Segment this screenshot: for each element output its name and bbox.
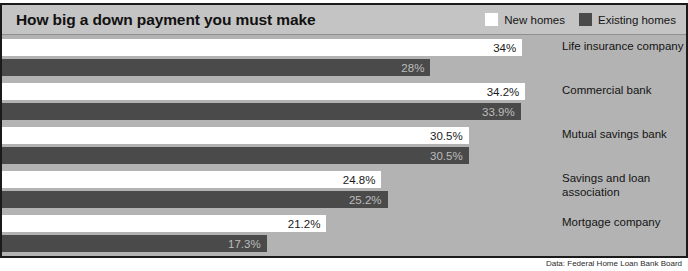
bar-existing-homes: 30.5% [2,147,469,164]
bar-row: 28% [2,59,686,76]
chart-title: How big a down payment you must make [16,11,316,29]
source-note: Data: Federal Home Loan Bank Board [0,259,682,268]
bar-group: 21.2%17.3%Mortgage company [2,215,686,252]
existing-homes-swatch-icon [579,13,592,26]
bar-value-label: 30.5% [430,130,469,142]
bar-value-label: 25.2% [349,194,388,206]
bar-value-label: 34.2% [487,86,526,98]
bar-new-homes: 34% [2,39,522,56]
bar-existing-homes: 17.3% [2,235,267,252]
plot-area: 34%28%Life insurance company34.2%33.9%Co… [2,35,686,256]
bar-group: 34%28%Life insurance company [2,39,686,76]
category-label: Life insurance company [562,40,688,54]
category-label: Commercial bank [562,84,688,98]
down-payment-bar-chart: How big a down payment you must make New… [0,0,688,271]
bar-value-label: 30.5% [430,150,469,162]
bar-value-label: 28% [401,62,430,74]
category-label: Savings and loan association [562,172,688,199]
bar-group: 24.8%25.2%Savings and loan association [2,171,686,208]
legend-label-existing-homes: Existing homes [598,14,676,26]
chart-header: How big a down payment you must make New… [2,5,686,35]
bar-new-homes: 24.8% [2,171,381,188]
chart-legend: New homes Existing homes [485,13,676,26]
bar-existing-homes: 28% [2,59,430,76]
bar-row: 17.3% [2,235,686,252]
bar-value-label: 34% [493,42,522,54]
legend-label-new-homes: New homes [504,14,565,26]
bar-new-homes: 21.2% [2,215,326,232]
bar-group: 30.5%30.5%Mutual savings bank [2,127,686,164]
chart-frame: How big a down payment you must make New… [0,3,688,258]
bar-value-label: 24.8% [343,174,382,186]
bar-row: 33.9% [2,103,686,120]
category-label: Mutual savings bank [562,128,688,142]
category-label: Mortgage company [562,216,688,230]
bar-existing-homes: 25.2% [2,191,388,208]
bar-value-label: 33.9% [482,106,521,118]
new-homes-swatch-icon [485,13,498,26]
bar-new-homes: 34.2% [2,83,525,100]
legend-item-new-homes: New homes [485,13,565,26]
bar-value-label: 21.2% [288,218,327,230]
bar-existing-homes: 33.9% [2,103,521,120]
bar-group: 34.2%33.9%Commercial bank [2,83,686,120]
bar-value-label: 17.3% [228,238,267,250]
legend-item-existing-homes: Existing homes [579,13,676,26]
bar-row: 30.5% [2,147,686,164]
bar-new-homes: 30.5% [2,127,469,144]
